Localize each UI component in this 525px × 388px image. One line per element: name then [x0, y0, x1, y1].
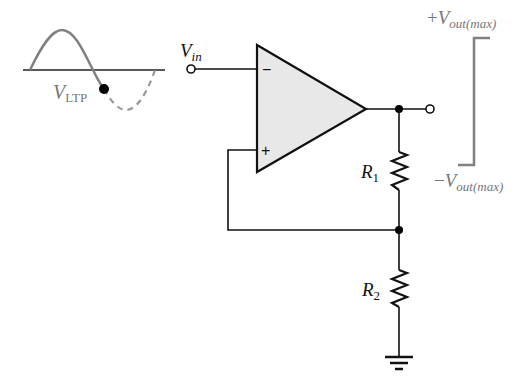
- resistor-r2: R2: [361, 230, 407, 357]
- vltp-label: VLTP: [53, 81, 87, 105]
- r2-label: R2: [361, 279, 380, 303]
- feedback-path: [228, 150, 403, 234]
- sine-solid: [30, 30, 104, 89]
- output-terminal: [426, 105, 434, 113]
- opamp: − +: [257, 45, 366, 172]
- ground-icon: [385, 357, 413, 369]
- output-waveform: +Vout(max) −Vout(max): [427, 7, 503, 194]
- output-wiring: [366, 105, 434, 152]
- square-wave-edge: [458, 38, 490, 165]
- vout-max-positive-label: +Vout(max): [427, 7, 496, 31]
- noninverting-input-symbol: +: [261, 142, 270, 159]
- sine-dashed: [104, 70, 155, 110]
- opamp-triangle: [257, 45, 366, 172]
- inverting-input-symbol: −: [262, 61, 271, 78]
- input-waveform: VLTP: [23, 30, 165, 110]
- resistor-r1: R1: [360, 152, 407, 230]
- r1-label: R1: [360, 161, 379, 185]
- vin-label: Vin: [180, 40, 202, 64]
- ltp-point: [99, 84, 109, 94]
- vout-max-negative-label: −Vout(max): [434, 170, 503, 194]
- vin-terminal: [187, 65, 195, 73]
- schmitt-trigger-diagram: VLTP Vin − + R1 R2: [0, 0, 525, 388]
- input-terminal-group: Vin: [180, 40, 257, 73]
